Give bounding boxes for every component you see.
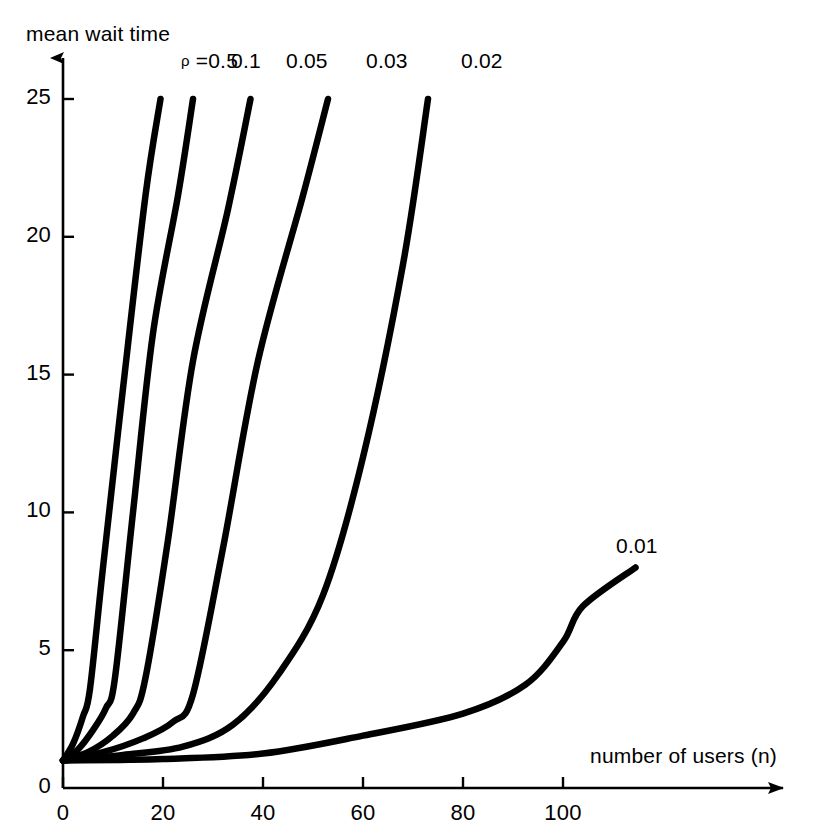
series-annotation: 0.02 xyxy=(461,49,503,73)
series-paths xyxy=(63,99,636,760)
chart-container: mean wait time number of users (n) 05101… xyxy=(0,0,822,840)
series-annotation: 0.1 xyxy=(231,49,261,73)
x-tick-label: 100 xyxy=(533,800,593,826)
x-tick-label: 40 xyxy=(233,800,293,826)
series-annotation: 0.01 xyxy=(616,534,658,558)
x-axis-title: number of users (n) xyxy=(590,744,777,768)
y-tick-label: 10 xyxy=(5,497,51,523)
y-tick-label: 15 xyxy=(5,360,51,386)
plot-canvas xyxy=(0,0,822,840)
y-tick-label: 25 xyxy=(5,84,51,110)
series-annotation: 0.03 xyxy=(366,49,408,73)
x-tick-label: 80 xyxy=(433,800,493,826)
y-tick-label: 5 xyxy=(5,635,51,661)
y-axis-title: mean wait time xyxy=(26,22,170,46)
y-tick-label: 20 xyxy=(5,222,51,248)
y-tick-label: 0 xyxy=(5,773,51,799)
rho-symbol: ρ xyxy=(181,52,190,69)
axis-lines xyxy=(63,58,783,788)
series-annotation: ρ =0.5 xyxy=(181,49,238,73)
series-line-0.1 xyxy=(63,99,193,760)
x-tick-label: 20 xyxy=(133,800,193,826)
x-tick-label: 60 xyxy=(333,800,393,826)
series-annotation: 0.05 xyxy=(286,49,328,73)
x-tick-label: 0 xyxy=(33,800,93,826)
